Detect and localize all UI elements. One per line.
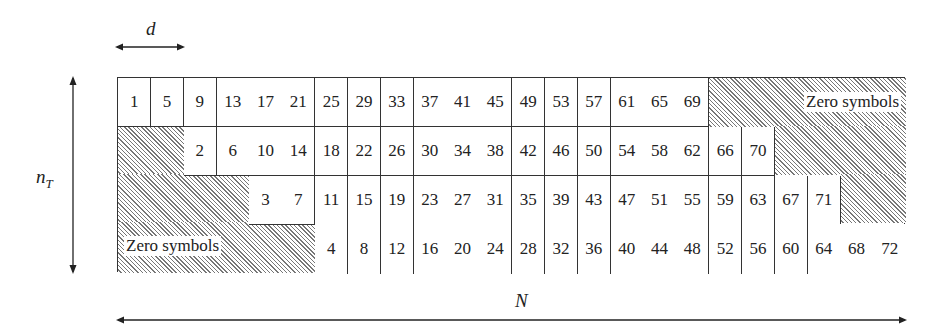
symbol-cell: 67: [775, 176, 808, 225]
symbol-cell: 34: [446, 127, 479, 176]
zero-region-top-right-2: [774, 126, 906, 175]
symbol-cell: 22: [348, 127, 381, 176]
symbol-cell: 65: [643, 78, 676, 127]
symbol-cell: 66: [709, 127, 742, 176]
symbol-cell: 20: [446, 224, 479, 273]
symbol-cell: 53: [545, 78, 578, 127]
symbol-cell: 68: [840, 224, 873, 273]
symbol-cell: 10: [249, 127, 282, 176]
symbol-cell: 13: [217, 78, 250, 127]
symbol-cell: 23: [414, 176, 447, 225]
symbol-cell: 32: [545, 224, 578, 273]
symbol-cell: 71: [808, 176, 841, 225]
symbol-cell: 28: [512, 224, 545, 273]
symbol-cell: 44: [643, 224, 676, 273]
symbol-cell: 62: [676, 127, 709, 176]
zero-region-top-right-3: [840, 174, 906, 223]
nT-label-main: n: [36, 166, 46, 187]
symbol-cell: 3: [249, 176, 282, 225]
symbol-cell: 27: [446, 176, 479, 225]
symbol-cell: 14: [282, 127, 315, 176]
symbol-cell: 70: [742, 127, 775, 176]
nT-label: nT: [36, 166, 53, 192]
symbol-cell: 36: [578, 224, 611, 273]
symbol-cell: 41: [446, 78, 479, 127]
symbol-cell: 17: [249, 78, 282, 127]
symbol-cell: 25: [315, 78, 348, 127]
symbol-cell: 58: [643, 127, 676, 176]
symbol-cell: 39: [545, 176, 578, 225]
symbol-cell: 4: [315, 224, 348, 273]
symbol-cell: 1: [118, 78, 151, 127]
N-label: N: [515, 290, 528, 312]
symbol-cell: 45: [479, 78, 512, 127]
symbol-cell: 11: [315, 176, 348, 225]
symbol-cell: 49: [512, 78, 545, 127]
symbol-cell: 56: [742, 224, 775, 273]
nT-height-arrow-icon: [66, 74, 80, 276]
symbol-cell: 2: [184, 127, 217, 176]
symbol-cell: 33: [381, 78, 414, 127]
symbol-cell: 47: [611, 176, 644, 225]
symbol-cell: 43: [578, 176, 611, 225]
symbol-cell: 51: [643, 176, 676, 225]
symbol-cell: 38: [479, 127, 512, 176]
symbol-cell: 55: [676, 176, 709, 225]
symbol-cell: 8: [348, 224, 381, 273]
symbol-cell: 21: [282, 78, 315, 127]
N-width-arrow-icon: [113, 313, 910, 327]
d-label: d: [146, 18, 156, 40]
symbol-cell: 37: [414, 78, 447, 127]
symbol-cell: 6: [217, 127, 250, 176]
symbol-grid: 1591317212529333741454953576165692610141…: [117, 77, 905, 272]
symbol-cell: 72: [873, 224, 906, 273]
symbol-cell: 50: [578, 127, 611, 176]
symbol-cell: 7: [282, 176, 315, 225]
symbol-cell: 60: [775, 224, 808, 273]
symbol-cell: 5: [151, 78, 184, 127]
zero-symbols-label-top: Zero symbols: [804, 92, 901, 112]
symbol-cell: 52: [709, 224, 742, 273]
symbol-cell: 48: [676, 224, 709, 273]
symbol-cell: 57: [578, 78, 611, 127]
symbol-cell: 61: [611, 78, 644, 127]
symbol-cell: 30: [414, 127, 447, 176]
symbol-cell: 46: [545, 127, 578, 176]
symbol-cell: 35: [512, 176, 545, 225]
zero-region-bottom-left-1: [118, 126, 184, 175]
symbol-cell: 63: [742, 176, 775, 225]
symbol-cell: 18: [315, 127, 348, 176]
zero-region-bottom-left-2: [118, 174, 250, 223]
symbol-cell: 19: [381, 176, 414, 225]
symbol-cell: 31: [479, 176, 512, 225]
symbol-cell: 16: [414, 224, 447, 273]
symbol-cell: 64: [808, 224, 841, 273]
symbol-cell: 15: [348, 176, 381, 225]
nT-label-sub: T: [46, 176, 53, 191]
d-width-arrow-icon: [112, 40, 188, 54]
symbol-cell: 59: [709, 176, 742, 225]
symbol-cell: 9: [184, 78, 217, 127]
symbol-cell: 69: [676, 78, 709, 127]
symbol-cell: 26: [381, 127, 414, 176]
zero-symbols-label-bottom: Zero symbols: [124, 236, 221, 256]
symbol-cell: 40: [611, 224, 644, 273]
symbol-cell: 24: [479, 224, 512, 273]
symbol-cell: 54: [611, 127, 644, 176]
symbol-cell: 12: [381, 224, 414, 273]
symbol-cell: 29: [348, 78, 381, 127]
symbol-cell: 42: [512, 127, 545, 176]
